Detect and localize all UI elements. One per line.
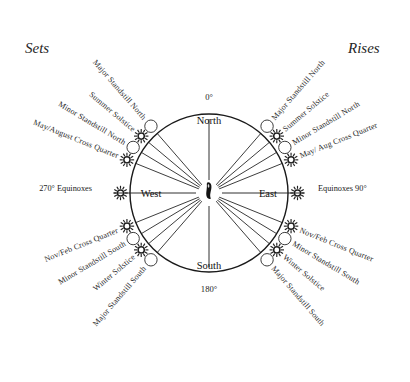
center-standing-stone xyxy=(198,182,220,204)
cardinal-label-west: West xyxy=(141,188,162,199)
sun-icon xyxy=(120,219,134,233)
ray-line xyxy=(148,193,209,244)
sun-icon xyxy=(284,153,298,167)
ray-line xyxy=(209,193,261,253)
ray-line xyxy=(209,133,261,193)
moon-icon xyxy=(261,254,273,266)
moon-icon xyxy=(145,254,157,266)
archaeoastronomy-horizon-diagram: Sets Rises 270° Equinoxes Equinoxes 90° … xyxy=(0,0,410,382)
moon-icon xyxy=(127,141,139,153)
degree-0-label: 0° xyxy=(205,92,213,102)
moon-icon xyxy=(279,232,291,244)
sun-icon xyxy=(134,243,148,257)
moon-icon xyxy=(261,120,273,132)
ray-line xyxy=(209,142,270,193)
sun-icon xyxy=(270,129,284,143)
sun-icon xyxy=(270,243,284,257)
ray-line xyxy=(157,193,209,253)
ray-line xyxy=(157,133,209,193)
ray-line xyxy=(209,193,277,234)
sun-icon xyxy=(120,153,134,167)
equinox-label-east: Equinoxes 90° xyxy=(318,184,367,193)
equinox-label-west: 270° Equinoxes xyxy=(39,184,92,193)
ray-line xyxy=(141,193,209,234)
sun-icon xyxy=(134,129,148,143)
degree-180-label: 180° xyxy=(201,284,217,294)
sets-title: Sets xyxy=(25,40,49,57)
cardinal-label-south: South xyxy=(197,260,222,271)
cardinal-label-east: East xyxy=(259,188,277,199)
ray-line xyxy=(148,142,209,193)
sun-icon xyxy=(284,219,298,233)
moon-icon xyxy=(127,232,139,244)
ray-line xyxy=(209,193,270,244)
moon-icon xyxy=(279,141,291,153)
cardinal-label-north: North xyxy=(197,115,222,126)
moon-icon xyxy=(145,120,157,132)
rises-title: Rises xyxy=(348,40,380,57)
